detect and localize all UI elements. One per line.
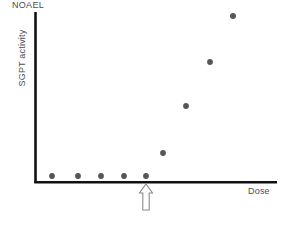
- data-point: [143, 173, 149, 179]
- data-point: [207, 59, 213, 65]
- scatter-plot-svg: [0, 0, 291, 235]
- chart-container: SGPT activity Dose NOAEL: [0, 0, 291, 235]
- data-point: [183, 103, 189, 109]
- data-point: [230, 13, 236, 19]
- data-point: [75, 173, 81, 179]
- data-point: [98, 173, 104, 179]
- noael-arrow-icon: [140, 184, 153, 210]
- x-axis-label: Dose: [248, 186, 270, 196]
- data-point: [121, 173, 127, 179]
- data-point: [49, 173, 55, 179]
- data-point-series: [49, 13, 236, 179]
- data-point: [160, 150, 166, 156]
- y-axis-label: SGPT activity: [17, 15, 27, 101]
